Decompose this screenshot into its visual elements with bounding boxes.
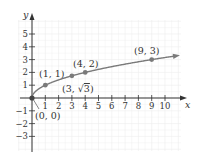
- y-axis-arrow-icon: [30, 13, 35, 20]
- data-point: [149, 57, 154, 62]
- curve-arrow-icon: [173, 54, 180, 59]
- label-point-1-1: (1, 1): [39, 68, 65, 79]
- y-tick-label: 1: [23, 80, 28, 90]
- x-axis-label: x: [185, 99, 191, 110]
- y-tick-label: 3: [23, 55, 28, 65]
- data-point: [70, 73, 75, 78]
- data-point: [43, 83, 48, 88]
- label-point-4-2: (4, 2): [73, 58, 99, 69]
- y-tick-label: −3: [15, 131, 28, 141]
- x-tick-label: 7: [122, 101, 127, 111]
- x-tick-label: 5: [96, 101, 101, 111]
- y-tick-label: 5: [23, 29, 28, 39]
- label-point-0-0: (0, 0): [35, 110, 61, 121]
- x-tick-label: 3: [69, 101, 74, 111]
- x-tick-label: 4: [82, 101, 87, 111]
- data-point: [83, 70, 88, 75]
- x-tick-label: 10: [160, 101, 171, 111]
- origin-leader-line: [33, 99, 39, 109]
- y-tick-label: −1: [15, 106, 28, 116]
- y-axis-label: y: [22, 9, 29, 20]
- x-tick-label: 8: [136, 101, 141, 111]
- grid-lines: [18, 20, 181, 151]
- y-tick-label: 4: [23, 42, 28, 52]
- x-tick-label: 6: [109, 101, 114, 111]
- label-point-9-3: (9, 3): [134, 45, 160, 56]
- label-point-3-sqrt3: (3, √3): [62, 83, 94, 94]
- y-tick-label: −2: [15, 119, 28, 129]
- axes: x y: [20, 9, 191, 152]
- x-tick-label: 9: [149, 101, 154, 111]
- y-tick-label: 2: [23, 67, 28, 77]
- sqrt-function-plot: x y 12345678910−3−2−112345 (0, 0) (1, 1)…: [0, 0, 198, 158]
